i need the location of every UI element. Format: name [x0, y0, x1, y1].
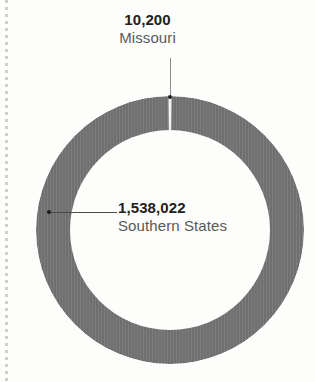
donut-chart-figure: 10,200 Missouri 1,538,022 Southern State… — [0, 0, 315, 382]
leader-line-southern-states — [49, 212, 117, 213]
marker-dot-missouri — [168, 95, 172, 99]
callout-missouri-value: 10,200 — [0, 11, 315, 28]
callout-missouri-label: Missouri — [0, 28, 315, 47]
callout-missouri: 10,200 Missouri — [0, 11, 315, 47]
marker-dot-southern-states — [47, 210, 51, 214]
callout-southern-states-value: 1,538,022 — [118, 199, 227, 216]
leader-line-missouri — [170, 58, 171, 97]
page-gutter-dotted-rule — [5, 0, 8, 382]
callout-southern-states: 1,538,022 Southern States — [118, 199, 227, 235]
callout-southern-states-label: Southern States — [118, 216, 227, 235]
